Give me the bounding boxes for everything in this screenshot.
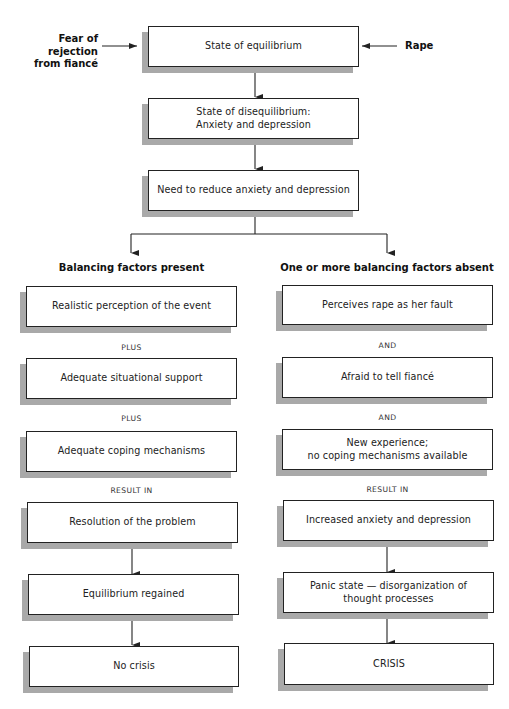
box-text: Equilibrium regained bbox=[83, 588, 185, 601]
left-connector-3: RESULT IN bbox=[26, 486, 237, 495]
box-text: New experience; no coping mechanisms ava… bbox=[307, 437, 467, 462]
heading-balancing-absent: One or more balancing factors absent bbox=[276, 262, 498, 273]
input-left-label: Fear of rejection from fiancé bbox=[8, 33, 98, 71]
box-text: No crisis bbox=[113, 660, 155, 673]
flowchart-canvas: Fear of rejection from fiancé Rape State… bbox=[0, 0, 509, 709]
box-text: Adequate coping mechanisms bbox=[58, 445, 205, 458]
box-text: Panic state — disorganization of thought… bbox=[310, 580, 467, 605]
box-need-to-reduce: Need to reduce anxiety and depression bbox=[148, 170, 359, 211]
left-box-6-no-crisis: No crisis bbox=[29, 646, 239, 687]
box-text: Afraid to tell fiancé bbox=[341, 371, 434, 384]
right-box-3: New experience; no coping mechanisms ava… bbox=[282, 429, 493, 470]
box-text: State of disequilibrium: Anxiety and dep… bbox=[196, 106, 311, 131]
right-box-2: Afraid to tell fiancé bbox=[282, 357, 493, 398]
box-state-of-disequilibrium: State of disequilibrium: Anxiety and dep… bbox=[148, 98, 359, 139]
left-box-5: Equilibrium regained bbox=[28, 574, 239, 615]
input-right-label: Rape bbox=[405, 40, 465, 53]
left-box-3: Adequate coping mechanisms bbox=[26, 431, 237, 472]
box-text: Realistic perception of the event bbox=[52, 300, 211, 313]
box-text: Resolution of the problem bbox=[69, 516, 195, 529]
left-box-2: Adequate situational support bbox=[26, 358, 237, 399]
left-box-1: Realistic perception of the event bbox=[26, 286, 237, 327]
box-text: Need to reduce anxiety and depression bbox=[157, 184, 350, 197]
left-connector-2: PLUS bbox=[26, 414, 237, 423]
left-connector-1: PLUS bbox=[26, 343, 237, 352]
right-box-1: Perceives rape as her fault bbox=[282, 285, 493, 325]
right-box-5: Panic state — disorganization of thought… bbox=[283, 572, 494, 613]
box-text: Increased anxiety and depression bbox=[306, 514, 471, 527]
left-box-4: Resolution of the problem bbox=[27, 502, 238, 543]
right-connector-2: AND bbox=[282, 413, 493, 422]
right-connector-1: AND bbox=[282, 341, 493, 350]
box-text: CRISIS bbox=[373, 658, 405, 671]
right-connector-3: RESULT IN bbox=[282, 485, 493, 494]
right-box-6-crisis: CRISIS bbox=[284, 643, 494, 685]
heading-balancing-present: Balancing factors present bbox=[26, 262, 237, 273]
box-state-of-equilibrium: State of equilibrium bbox=[148, 26, 359, 67]
right-box-4: Increased anxiety and depression bbox=[283, 500, 494, 541]
box-text: Adequate situational support bbox=[60, 372, 202, 385]
box-text: Perceives rape as her fault bbox=[322, 299, 453, 312]
box-text: State of equilibrium bbox=[205, 40, 302, 53]
